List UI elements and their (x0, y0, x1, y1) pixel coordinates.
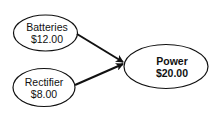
power-label: Power (148, 55, 196, 67)
batteries-label: Batteries (22, 21, 72, 33)
batteries-value: $12.00 (22, 33, 72, 45)
power-node: Power $20.00 (148, 55, 196, 79)
batteries-node: Batteries $12.00 (22, 21, 72, 45)
edge-batteries-to-power (77, 34, 123, 62)
rectifier-label: Rectifier (20, 76, 68, 88)
power-value: $20.00 (148, 67, 196, 79)
edge-rectifier-to-power (75, 64, 123, 85)
rectifier-node: Rectifier $8.00 (20, 76, 68, 100)
rectifier-value: $8.00 (20, 88, 68, 100)
